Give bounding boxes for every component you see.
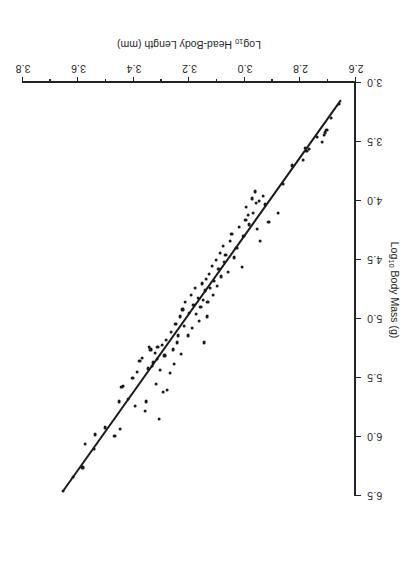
x-tick-minor: [49, 79, 50, 82]
scatter-point: [216, 284, 219, 287]
y-tick-label: 3.5: [367, 136, 382, 148]
scatter-point: [198, 320, 201, 323]
scatter-point: [250, 197, 253, 200]
scatter-point: [308, 148, 311, 151]
y-tick-label: 5.5: [367, 372, 382, 384]
scatter-point: [210, 264, 213, 267]
scatter-point: [166, 388, 169, 391]
x-tick-label: 3.4: [126, 63, 141, 75]
scatter-point: [206, 301, 209, 304]
x-tick-minor: [271, 79, 272, 82]
scatter-point: [256, 228, 259, 231]
scatter-point: [157, 418, 160, 421]
scatter-point: [156, 346, 159, 349]
scatter-point: [224, 254, 227, 257]
scatter-point: [221, 244, 224, 247]
scatter-point: [119, 427, 122, 430]
y-tick-label: 3.0: [367, 77, 382, 89]
scatter-point: [134, 405, 137, 408]
scatter-point: [162, 391, 165, 394]
y-tick-label: 6.0: [367, 431, 382, 443]
y-tick-label: 4.0: [367, 195, 382, 207]
y-tick-label: 4.5: [367, 254, 382, 266]
scatter-point: [302, 158, 305, 161]
scatter-point: [168, 372, 171, 375]
y-tick: [356, 141, 361, 142]
y-axis-title-suffix: Body Mass (g): [389, 268, 401, 339]
scatter-point: [138, 360, 141, 363]
scatter-point: [153, 352, 156, 355]
x-axis-title: Log10 Head-Body Length (mm): [117, 39, 261, 51]
scatter-point: [253, 190, 256, 193]
scatter-point: [199, 306, 202, 309]
scatter-point: [228, 240, 231, 243]
scatter-point: [245, 205, 248, 208]
x-axis-title-prefix: Log: [243, 39, 261, 51]
scatter-point: [144, 409, 147, 412]
scatter-point: [159, 368, 162, 371]
scatter-point: [258, 199, 261, 202]
scatter-point: [182, 325, 185, 328]
x-tick: [244, 77, 245, 82]
scatter-point: [191, 327, 194, 330]
x-tick-minor: [160, 79, 161, 82]
x-tick: [299, 77, 300, 82]
x-tick-label: 3.6: [71, 63, 86, 75]
scatter-point: [180, 353, 183, 356]
scatter-point: [178, 315, 181, 318]
scatter-point: [145, 400, 148, 403]
x-tick-label: 2.6: [348, 63, 363, 75]
x-tick-label: 3.2: [182, 63, 197, 75]
scatter-point: [244, 218, 247, 221]
regression-line: [63, 99, 342, 491]
x-tick: [22, 77, 23, 82]
scatter-point: [173, 362, 176, 365]
y-axis-title-subscript: 10: [387, 259, 396, 267]
scatter-point: [277, 211, 280, 214]
scatter-point: [202, 299, 205, 302]
scatter-point: [209, 287, 212, 290]
scatter-point: [241, 266, 244, 269]
y-tick: [356, 318, 361, 319]
scatter-point: [329, 117, 332, 120]
x-tick-minor: [216, 79, 217, 82]
scatter-point: [207, 273, 210, 276]
scatter-point: [131, 376, 134, 379]
scatter-point: [218, 251, 221, 254]
scatter-point: [193, 287, 196, 290]
scatter-point: [187, 334, 190, 337]
y-axis-line: [354, 82, 356, 496]
x-tick: [133, 77, 134, 82]
scatter-point: [135, 371, 138, 374]
scatter-point: [230, 232, 233, 235]
scatter-point: [321, 140, 324, 143]
scatter-point: [155, 382, 158, 385]
scatter-point: [121, 385, 124, 388]
scatter-point: [252, 211, 255, 214]
scatter-point: [195, 313, 198, 316]
scatter-point: [170, 330, 173, 333]
scatter-point: [160, 343, 163, 346]
scatter-point: [189, 294, 192, 297]
x-axis-title-suffix: Head-Body Length (mm): [117, 39, 235, 51]
y-tick: [356, 436, 361, 437]
scatter-point: [227, 270, 230, 273]
scatter-point: [214, 258, 217, 261]
x-tick-label: 2.8: [293, 63, 308, 75]
scatter-point: [184, 301, 187, 304]
y-tick: [356, 259, 361, 260]
figure-canvas: 2.62.83.03.23.43.63.83.03.54.04.55.05.56…: [0, 0, 411, 582]
x-tick-label: 3.0: [237, 63, 252, 75]
scatter-point: [267, 221, 270, 224]
x-tick: [77, 77, 78, 82]
y-tick-label: 5.0: [367, 313, 382, 325]
scatter-point: [259, 240, 262, 243]
y-axis-title-prefix: Log: [389, 242, 401, 260]
scatter-point: [237, 225, 240, 228]
y-axis-title: Log10 Body Mass (g): [389, 242, 401, 338]
x-tick-minor: [327, 79, 328, 82]
scatter-point: [94, 433, 97, 436]
scatter-point: [149, 348, 152, 351]
scatter-point: [163, 354, 166, 357]
scatter-point: [181, 308, 184, 311]
